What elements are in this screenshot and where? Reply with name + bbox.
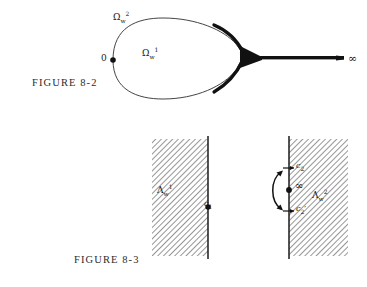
curved-double-arrow: [273, 172, 281, 209]
label-point-c2: c2: [296, 162, 304, 170]
label-point-c2-prime: c2′: [296, 205, 306, 213]
figure-8-3-drawing: [0, 0, 367, 287]
label-lambda-w-1: Λw1: [157, 186, 172, 195]
label-panel-infinity: ∞: [295, 181, 303, 191]
panel-right-group: [273, 136, 348, 259]
label-point-c1: c1: [204, 200, 212, 208]
label-lambda-w-2: Λw2: [312, 191, 327, 200]
panel-left-hatched-region: [152, 139, 208, 256]
panel-left-group: [152, 136, 211, 259]
figure-8-3-caption: FIGURE 8-3: [74, 254, 140, 265]
point-infinity-dot: [286, 187, 292, 193]
figure-page: Ωw2 Ωw1 0 ∞ FIGURE 8-2: [0, 0, 367, 287]
